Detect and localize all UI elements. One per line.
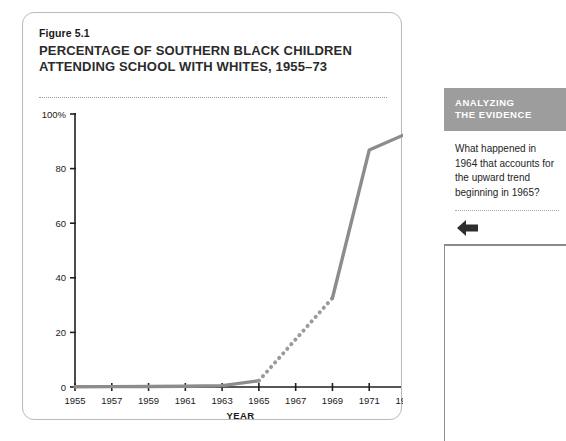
x-axis-tick-label: 1963 [212, 395, 233, 406]
y-axis-tick-label: 80 [55, 163, 66, 174]
y-axis-tick-label: 100% [42, 109, 67, 120]
data-series-2 [332, 134, 403, 298]
y-axis-tick-label: 20 [55, 327, 66, 338]
x-axis-tick-label: 1965 [248, 395, 269, 406]
sidebar-question-text: What happened in 1964 that accounts for … [455, 142, 556, 200]
sidebar-header-line1: ANALYZING [455, 97, 555, 109]
figure-card: Figure 5.1 PERCENTAGE OF SOUTHERN BLACK … [22, 12, 402, 420]
arrow-left-icon[interactable] [456, 219, 480, 237]
sidebar-arrow-row[interactable] [455, 211, 556, 241]
sidebar-header-line2: THE EVIDENCE [455, 109, 555, 121]
x-axis-tick-label: 1961 [175, 395, 196, 406]
x-axis-tick-label: 1969 [322, 395, 343, 406]
x-axis-tick-label: 1957 [101, 395, 122, 406]
x-axis-tick-label: 1971 [359, 395, 380, 406]
line-chart-svg: 020406080100%195519571959196119631965196… [23, 13, 403, 421]
sidebar-header: ANALYZING THE EVIDENCE [444, 88, 566, 131]
sidebar-body: What happened in 1964 that accounts for … [444, 131, 566, 241]
x-axis-title: YEAR [227, 410, 255, 421]
y-axis-tick-label: 60 [55, 218, 66, 229]
data-series-1 [259, 298, 333, 381]
x-axis-tick-label: 1967 [285, 395, 306, 406]
x-axis-tick-label: 1959 [138, 395, 159, 406]
analyzing-the-evidence-panel: ANALYZING THE EVIDENCE What happened in … [444, 88, 566, 246]
y-axis-tick-label: 40 [55, 272, 66, 283]
x-axis-tick-label: 1955 [64, 395, 85, 406]
chart-plot-area: 020406080100%195519571959196119631965196… [23, 13, 403, 421]
y-axis-tick-label: 0 [61, 382, 66, 393]
data-series-0 [75, 381, 259, 387]
x-axis-tick-label: 1973 [395, 395, 403, 406]
